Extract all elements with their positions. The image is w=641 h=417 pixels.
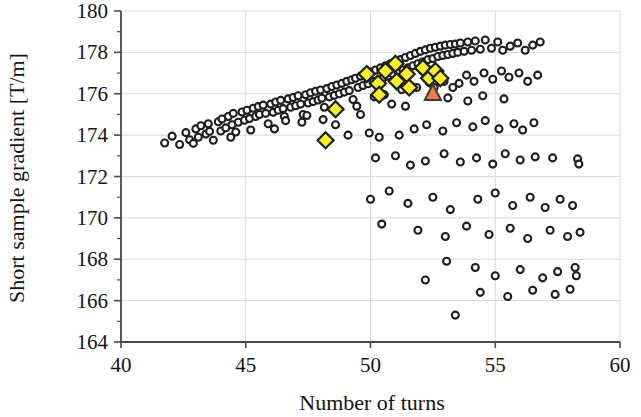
chart-figure: 164166168170172174176178180 4045505560 N… [0, 0, 641, 417]
data-point-circle [265, 120, 272, 127]
data-point-circle [515, 70, 522, 77]
data-point-circle [443, 258, 450, 265]
data-point-circle [376, 134, 383, 141]
y-tick-label: 174 [77, 123, 109, 147]
data-point-circle [524, 235, 531, 242]
data-point-circle [396, 132, 403, 139]
data-point-circle [474, 196, 481, 203]
data-point-circle [402, 103, 409, 110]
data-point-circle [388, 101, 395, 108]
y-tick-label: 164 [77, 330, 109, 354]
x-tick-label: 55 [485, 353, 506, 377]
data-point-circle [572, 264, 579, 271]
data-point-circle [539, 274, 546, 281]
data-point-circle [320, 116, 327, 123]
data-point-circle [353, 103, 360, 110]
data-point-circle [357, 111, 364, 118]
data-point-circle [247, 126, 254, 133]
data-point-circle [522, 47, 529, 54]
data-point-circle [386, 187, 393, 194]
data-point-circle [504, 293, 511, 300]
data-point-circle [404, 200, 411, 207]
data-point-circle [318, 95, 325, 102]
data-point-circle [479, 92, 486, 99]
data-point-circle [345, 132, 352, 139]
data-point-circle [439, 127, 446, 134]
data-point-circle [346, 87, 353, 94]
data-point-circle [457, 40, 464, 47]
data-point-circle [492, 190, 499, 197]
data-point-circle [206, 128, 213, 135]
data-point-circle [542, 204, 549, 211]
data-point-circle [271, 125, 278, 132]
data-point-circle [527, 194, 534, 201]
data-point-circle [532, 153, 539, 160]
data-point-circle [549, 154, 556, 161]
data-point-circle [492, 272, 499, 279]
data-point-circle [182, 129, 189, 136]
data-point-circle [260, 102, 267, 109]
data-point-circle [429, 194, 436, 201]
data-point-circle [169, 133, 176, 140]
data-point-circle [509, 202, 516, 209]
data-point-circle [489, 161, 496, 168]
x-axis-title: Number of turns [299, 390, 444, 415]
data-point-circle [205, 120, 212, 127]
data-point-circle [471, 78, 478, 85]
data-point-circle [407, 162, 414, 169]
data-point-circle [442, 233, 449, 240]
data-point-circle [482, 117, 489, 124]
data-point-circle [517, 156, 524, 163]
data-point-circle [464, 97, 471, 104]
data-point-circle [482, 36, 489, 43]
data-point-circle [262, 110, 269, 117]
data-point-circle [517, 266, 524, 273]
data-point-circle [505, 74, 512, 81]
y-tick-label: 176 [77, 82, 109, 106]
data-point-circle [534, 72, 541, 79]
data-point-circle [530, 119, 537, 126]
data-point-circle [510, 120, 517, 127]
data-point-circle [573, 272, 580, 279]
data-point-circle [295, 92, 302, 99]
data-point-circle [422, 276, 429, 283]
data-point-circle [494, 39, 501, 46]
x-tick-label: 45 [235, 353, 256, 377]
data-point-circle [477, 289, 484, 296]
data-point-circle [547, 227, 554, 234]
data-point-circle [488, 45, 495, 52]
data-point-circle [575, 161, 582, 168]
data-point-circle [230, 110, 237, 117]
data-point-circle [500, 95, 507, 102]
data-point-circle [577, 229, 584, 236]
data-point-circle [477, 46, 484, 53]
data-point-circle [280, 105, 287, 112]
data-point-circle [441, 150, 448, 157]
y-tick-label: 168 [77, 247, 109, 271]
data-point-circle [468, 47, 475, 54]
y-tick-labels-group: 164166168170172174176178180 [77, 0, 109, 354]
data-point-circle [453, 119, 460, 126]
data-point-circle [499, 47, 506, 54]
data-point-circle [367, 196, 374, 203]
data-point-circle [564, 233, 571, 240]
data-point-circle [524, 78, 531, 85]
data-point-circle [552, 291, 559, 298]
data-point-circle [502, 150, 509, 157]
data-point-circle [463, 72, 470, 79]
data-point-circle [464, 39, 471, 46]
data-point-circle [557, 196, 564, 203]
data-point-circle [472, 264, 479, 271]
x-tick-label: 40 [111, 353, 132, 377]
data-point-circle [481, 70, 488, 77]
data-point-circle [227, 134, 234, 141]
y-tick-label: 172 [77, 165, 109, 189]
data-point-circle [498, 67, 505, 74]
data-point-circle [210, 137, 217, 144]
data-point-circle [567, 286, 574, 293]
data-point-circle [444, 94, 451, 101]
y-tick-label: 166 [77, 289, 109, 313]
data-point-circle [447, 206, 454, 213]
data-point-circle [277, 97, 284, 104]
data-point-circle [452, 312, 459, 319]
